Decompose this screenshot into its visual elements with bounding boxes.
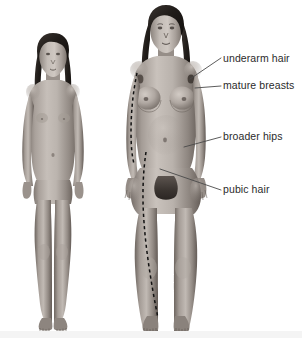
label-broader-hips: broader hips: [223, 130, 283, 142]
child-knee-left: [38, 244, 50, 260]
nipple-left: [144, 97, 149, 101]
label-underarm-hair: underarm hair: [223, 52, 290, 64]
child-navel: [51, 153, 54, 157]
child-leg-right: [54, 200, 71, 322]
child-foot-right: [54, 318, 68, 331]
child-shoulder-left: [26, 84, 40, 100]
adult-knee-right: [175, 257, 191, 279]
adult-knee-left: [141, 257, 157, 279]
bottom-band: [0, 331, 302, 338]
post-pubertal-female-figure: [125, 5, 207, 336]
child-shoulder-right: [66, 84, 80, 100]
prepubescent-female-figure: [22, 33, 84, 331]
nipple-right: [182, 97, 187, 101]
pubic-hair: [154, 176, 177, 200]
child-foot-left: [39, 318, 53, 331]
adult-navel: [163, 138, 167, 143]
hip-left-highlight: [128, 178, 142, 202]
child-leg-left: [35, 200, 52, 322]
label-pubic-hair: pubic hair: [223, 183, 270, 195]
child-nipple-left: [41, 118, 43, 120]
child-hand-left: [23, 182, 32, 199]
child-nipple-right: [63, 118, 65, 120]
adult-abdomen-shading: [148, 115, 184, 155]
child-hand-right: [75, 182, 84, 199]
puberty-diagram: underarm hair mature breasts broader hip…: [0, 0, 302, 338]
child-knee-right: [56, 244, 68, 260]
label-mature-breasts: mature breasts: [223, 79, 294, 91]
diagram-canvas: [0, 0, 302, 338]
